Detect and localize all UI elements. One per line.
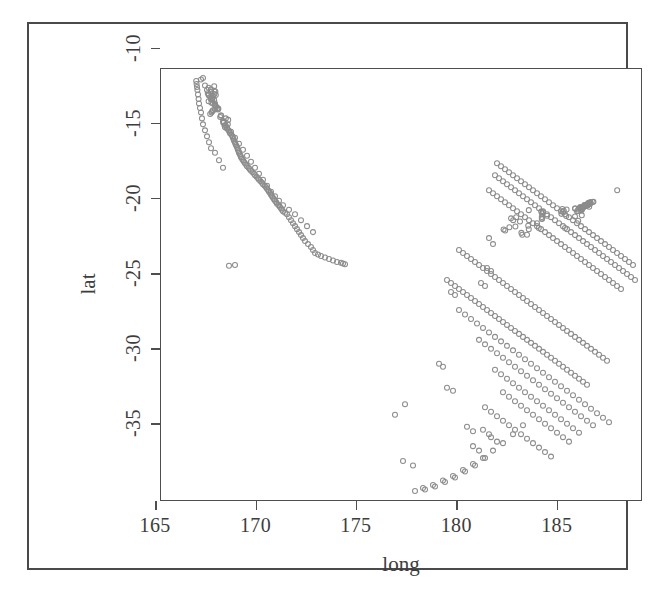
data-point: [495, 439, 500, 444]
x-axis-tick: [155, 501, 157, 510]
data-point: [559, 384, 564, 389]
data-point: [513, 399, 518, 404]
y-axis-tick-label: -35: [123, 409, 143, 437]
y-axis-tick: [151, 273, 160, 275]
data-point: [519, 432, 524, 437]
data-point: [571, 426, 576, 431]
data-point: [293, 212, 298, 217]
data-point: [249, 159, 254, 164]
data-point: [565, 388, 570, 393]
data-point: [561, 400, 566, 405]
data-point: [579, 213, 584, 218]
data-point: [585, 418, 590, 423]
y-axis-tick: [151, 348, 160, 350]
data-point: [523, 390, 528, 395]
data-point: [573, 409, 578, 414]
data-point: [535, 399, 540, 404]
data-point: [577, 397, 582, 402]
x-axis-tick-label: 170: [240, 515, 271, 535]
data-point: [526, 223, 531, 228]
data-point: [517, 352, 522, 357]
data-point: [499, 339, 504, 344]
data-point: [615, 188, 620, 193]
data-point: [245, 153, 250, 158]
data-point: [477, 448, 482, 453]
data-point: [477, 337, 482, 342]
data-point: [523, 357, 528, 362]
data-point: [525, 408, 530, 413]
data-point: [537, 382, 542, 387]
y-axis-title: lat: [76, 274, 101, 295]
data-point: [209, 146, 214, 151]
data-point: [311, 230, 316, 235]
data-point: [401, 459, 406, 464]
data-point: [541, 403, 546, 408]
data-point: [583, 402, 588, 407]
x-axis-tick-label: 165: [139, 515, 170, 535]
y-axis-tick: [151, 123, 160, 125]
data-point: [491, 242, 496, 247]
data-point: [511, 348, 516, 353]
data-point: [565, 421, 570, 426]
data-point: [233, 263, 238, 268]
data-point: [194, 78, 199, 83]
data-point: [253, 165, 258, 170]
data-point: [525, 436, 530, 441]
data-point: [555, 430, 560, 435]
data-point: [633, 278, 638, 283]
data-point: [499, 372, 504, 377]
data-point: [513, 364, 518, 369]
data-point: [579, 414, 584, 419]
data-point: [631, 263, 636, 268]
data-point: [495, 414, 500, 419]
data-point: [205, 134, 210, 139]
data-point: [487, 330, 492, 335]
data-point: [549, 426, 554, 431]
data-point: [469, 316, 474, 321]
data-point: [525, 232, 530, 237]
data-point: [585, 382, 590, 387]
data-point: [567, 405, 572, 410]
data-point: [489, 346, 494, 351]
y-axis-tick: [151, 423, 160, 425]
data-point: [526, 208, 531, 213]
data-point: [491, 448, 496, 453]
data-point: [518, 219, 523, 224]
data-point: [619, 287, 624, 292]
data-point: [607, 420, 612, 425]
data-point: [517, 385, 522, 390]
y-axis-tick-label: -10: [123, 34, 143, 62]
data-point: [553, 412, 558, 417]
data-point: [555, 396, 560, 401]
figure-outer-frame: 165170175180185-10-15-20-25-30-35 long l…: [27, 22, 628, 570]
data-point: [481, 325, 486, 330]
data-point: [413, 489, 418, 494]
x-axis-title: long: [382, 552, 419, 577]
data-point: [203, 128, 208, 133]
data-point: [287, 207, 292, 212]
data-point: [559, 417, 564, 422]
data-point: [505, 376, 510, 381]
data-point: [481, 427, 486, 432]
data-point: [543, 450, 548, 455]
data-point: [531, 412, 536, 417]
data-point: [213, 150, 218, 155]
data-point: [306, 242, 311, 247]
data-point: [501, 355, 506, 360]
x-axis-tick-label: 180: [441, 515, 472, 535]
y-axis-tick-label: -15: [123, 109, 143, 137]
data-point: [525, 373, 530, 378]
data-point: [505, 343, 510, 348]
y-axis-tick: [151, 48, 160, 50]
data-point: [221, 165, 226, 170]
data-point: [601, 415, 606, 420]
data-point: [411, 463, 416, 468]
data-point: [441, 364, 446, 369]
data-point: [393, 412, 398, 417]
data-point: [589, 406, 594, 411]
x-axis-tick: [356, 501, 358, 510]
data-point: [567, 439, 572, 444]
data-point: [571, 393, 576, 398]
data-point: [547, 375, 552, 380]
data-point: [217, 158, 222, 163]
